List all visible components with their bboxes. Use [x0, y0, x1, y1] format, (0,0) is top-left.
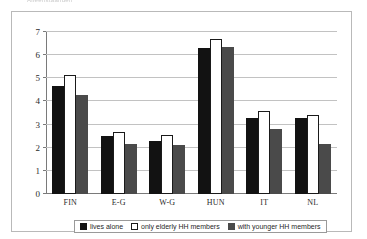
y-axis-tick-label: 2: [36, 143, 41, 153]
bar[interactable]: [319, 144, 331, 194]
bar-group: [246, 32, 282, 194]
x-axis-tick-label: HUN: [193, 198, 239, 207]
bar[interactable]: [198, 48, 210, 194]
bar[interactable]: [149, 141, 161, 194]
bar[interactable]: [101, 136, 113, 194]
bar-group: [101, 32, 137, 194]
bar[interactable]: [161, 135, 173, 194]
y-axis-tick-label: 6: [36, 50, 41, 60]
x-axis-tick-label: E-G: [96, 198, 142, 207]
y-axis-tick-label: 3: [36, 120, 41, 130]
bar[interactable]: [173, 145, 185, 194]
bar[interactable]: [64, 75, 76, 194]
x-axis-tick-label: FIN: [47, 198, 93, 207]
top-caption: Alleenstaanden: [27, 0, 73, 3]
y-axis-tick-label: 7: [36, 27, 41, 37]
x-axis-tick-label: NL: [290, 198, 336, 207]
bar-group: [149, 32, 185, 194]
bar[interactable]: [246, 118, 258, 194]
y-axis-tick-label: 4: [36, 96, 41, 106]
legend-label: with younger HH members: [238, 223, 321, 230]
bar-group: [198, 32, 234, 194]
x-axis-labels: FINE-GW-GHUNITNL: [46, 198, 337, 207]
bar-group: [52, 32, 88, 194]
bar-series-container: [46, 32, 337, 194]
y-axis-tick-label: 1: [36, 166, 41, 176]
bar[interactable]: [113, 132, 125, 194]
bar-group: [295, 32, 331, 194]
bar[interactable]: [258, 111, 270, 194]
y-axis-tick-label: 5: [36, 73, 41, 83]
x-axis-tick-label: IT: [241, 198, 287, 207]
x-axis-tick-label: W-G: [144, 198, 190, 207]
bar[interactable]: [52, 86, 64, 194]
bar[interactable]: [307, 115, 319, 194]
legend-swatch-icon: [228, 223, 235, 230]
chart-frame: 01234567 FINE-GW-GHUNITNL lives aloneonl…: [11, 11, 352, 232]
chart-legend: lives aloneonly elderly HH memberswith y…: [74, 220, 327, 233]
bar[interactable]: [295, 118, 307, 194]
bar[interactable]: [222, 47, 234, 194]
bar[interactable]: [210, 39, 222, 194]
bar[interactable]: [76, 95, 88, 194]
bar[interactable]: [270, 129, 282, 194]
y-axis-tick-label: 0: [36, 189, 41, 199]
legend-swatch-icon: [80, 223, 87, 230]
legend-swatch-icon: [131, 223, 138, 230]
legend-label: only elderly HH members: [141, 223, 220, 230]
legend-label: lives alone: [90, 223, 123, 230]
legend-item[interactable]: lives alone: [80, 223, 123, 230]
bar[interactable]: [125, 144, 137, 194]
plot-area: 01234567: [46, 32, 337, 194]
legend-item[interactable]: with younger HH members: [228, 223, 321, 230]
legend-item[interactable]: only elderly HH members: [131, 223, 220, 230]
